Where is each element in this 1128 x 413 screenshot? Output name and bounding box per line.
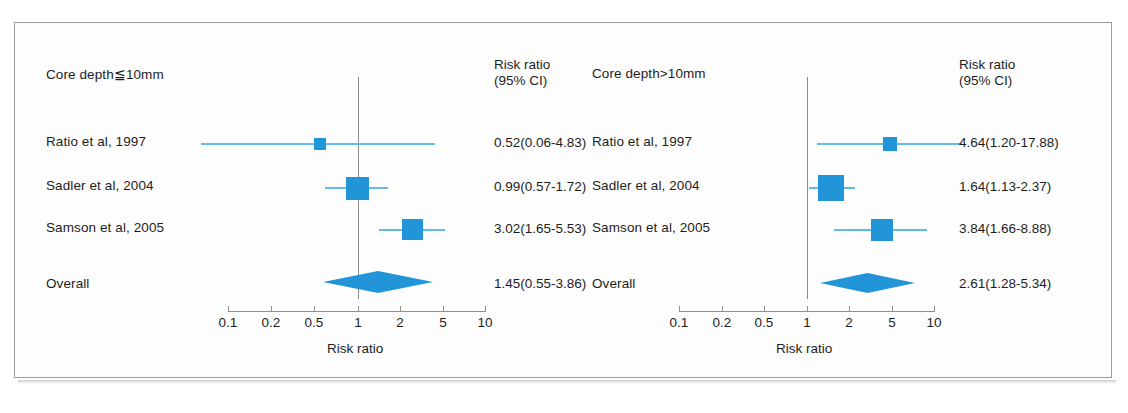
x-tick-left-3 bbox=[358, 306, 359, 312]
plot-area-right: Ratio et al, 1997 4.64(1.20-17.88) Sadle… bbox=[564, 23, 1113, 379]
estimate-text-right-1: 1.64(1.13-2.37) bbox=[959, 179, 1051, 194]
x-axis-title-left: Risk ratio bbox=[327, 341, 383, 356]
summary-label-right: Overall bbox=[592, 276, 635, 291]
x-tick-left-6 bbox=[485, 306, 486, 312]
study-label-right-0: Ratio et al, 1997 bbox=[592, 134, 692, 149]
point-marker-left-1 bbox=[346, 177, 369, 200]
x-tick-label-right-2: 0.5 bbox=[755, 315, 774, 330]
x-tick-label-left-0: 0.1 bbox=[219, 315, 238, 330]
x-tick-left-2 bbox=[314, 306, 315, 312]
x-tick-label-left-6: 10 bbox=[477, 315, 492, 330]
x-tick-right-6 bbox=[934, 306, 935, 312]
x-tick-label-right-5: 5 bbox=[888, 315, 896, 330]
summary-label-left: Overall bbox=[46, 276, 89, 291]
x-tick-label-right-0: 0.1 bbox=[670, 315, 689, 330]
plot-area-left: Ratio et al, 1997 0.52(0.06-4.83) Sadler… bbox=[15, 23, 564, 379]
study-label-left-2: Samson et al, 2005 bbox=[46, 220, 164, 235]
x-tick-label-left-5: 5 bbox=[439, 315, 447, 330]
figure-frame: Core depth≦10mm Risk ratio (95% CI) Rati… bbox=[14, 22, 1112, 378]
forest-plot-figure: Core depth≦10mm Risk ratio (95% CI) Rati… bbox=[0, 0, 1128, 413]
point-marker-left-2 bbox=[402, 219, 423, 240]
point-marker-right-0 bbox=[883, 137, 897, 151]
x-tick-label-left-4: 2 bbox=[396, 315, 404, 330]
x-axis-line-left bbox=[228, 311, 486, 312]
x-tick-label-right-4: 2 bbox=[845, 315, 853, 330]
x-axis-title-right: Risk ratio bbox=[776, 341, 832, 356]
study-label-left-1: Sadler et al, 2004 bbox=[46, 178, 154, 193]
x-tick-right-2 bbox=[764, 306, 765, 312]
reference-line-right bbox=[807, 77, 808, 299]
figure-shadow bbox=[18, 380, 1116, 384]
x-tick-right-1 bbox=[722, 306, 723, 312]
x-tick-label-right-1: 0.2 bbox=[713, 315, 732, 330]
x-tick-right-3 bbox=[807, 306, 808, 312]
x-tick-left-5 bbox=[443, 306, 444, 312]
x-tick-label-right-3: 1 bbox=[803, 315, 811, 330]
summary-diamond-left bbox=[323, 271, 433, 293]
x-tick-label-left-3: 1 bbox=[354, 315, 362, 330]
x-tick-label-right-6: 10 bbox=[926, 315, 941, 330]
x-tick-left-4 bbox=[400, 306, 401, 312]
point-marker-left-0 bbox=[314, 138, 326, 150]
x-tick-right-5 bbox=[892, 306, 893, 312]
study-label-left-0: Ratio et al, 1997 bbox=[46, 134, 146, 149]
estimate-text-right-summary: 2.61(1.28-5.34) bbox=[959, 276, 1051, 291]
study-label-right-2: Samson et al, 2005 bbox=[592, 220, 710, 235]
point-marker-right-2 bbox=[871, 219, 893, 241]
point-marker-right-1 bbox=[818, 175, 844, 201]
x-tick-left-1 bbox=[271, 306, 272, 312]
estimate-text-right-0: 4.64(1.20-17.88) bbox=[959, 135, 1059, 150]
x-tick-right-0 bbox=[679, 306, 680, 312]
panel-core-depth-le-10mm: Core depth≦10mm Risk ratio (95% CI) Rati… bbox=[15, 23, 564, 379]
x-tick-label-left-1: 0.2 bbox=[262, 315, 281, 330]
x-tick-right-4 bbox=[849, 306, 850, 312]
summary-diamond-right bbox=[820, 273, 915, 293]
panel-core-depth-gt-10mm: Core depth>10mm Risk ratio (95% CI) Rati… bbox=[564, 23, 1113, 379]
study-label-right-1: Sadler et al, 2004 bbox=[592, 178, 700, 193]
estimate-text-right-2: 3.84(1.66-8.88) bbox=[959, 221, 1051, 236]
x-tick-left-0 bbox=[228, 306, 229, 312]
x-tick-label-left-2: 0.5 bbox=[305, 315, 324, 330]
